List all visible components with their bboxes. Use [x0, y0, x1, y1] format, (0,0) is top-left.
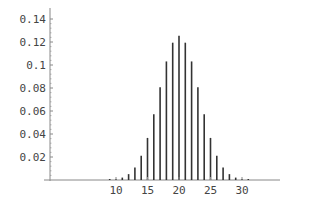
y-tick-label: 0.1 — [26, 59, 46, 72]
x-tick-label: 10 — [109, 184, 122, 197]
y-tick-label: 0.02 — [20, 151, 47, 164]
binomial-distribution-chart: 0.020.040.060.080.10.120.14 1015202530 — [0, 0, 323, 203]
y-tick-label: 0.12 — [20, 36, 47, 49]
x-tick-label: 30 — [235, 184, 248, 197]
x-tick-label: 20 — [172, 184, 185, 197]
y-axis-ticks: 0.020.040.060.080.10.120.14 — [20, 13, 54, 175]
y-tick-label: 0.04 — [20, 128, 47, 141]
x-tick-label: 25 — [204, 184, 217, 197]
x-tick-label: 15 — [141, 184, 154, 197]
y-tick-label: 0.08 — [20, 82, 47, 95]
stem-bars — [110, 36, 249, 180]
y-tick-label: 0.06 — [20, 105, 47, 118]
y-tick-label: 0.14 — [20, 13, 47, 26]
axes — [44, 8, 280, 181]
